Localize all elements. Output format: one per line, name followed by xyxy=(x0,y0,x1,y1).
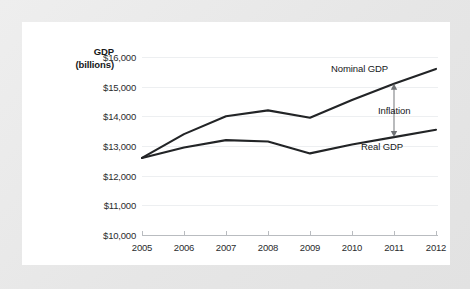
series-label-real-gdp: Real GDP xyxy=(361,141,403,152)
series-label-nominal-gdp: Nominal GDP xyxy=(331,63,388,74)
page-background: GDP (billions) $16,000$15,000$14,000$13,… xyxy=(0,0,470,289)
annotation-label-inflation: Inflation xyxy=(378,105,410,116)
figure-card: GDP (billions) $16,000$15,000$14,000$13,… xyxy=(22,22,450,265)
gdp-line-chart: GDP (billions) $16,000$15,000$14,000$13,… xyxy=(22,22,450,265)
